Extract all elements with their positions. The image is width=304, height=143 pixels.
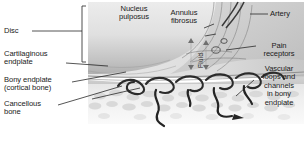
label-fluid: Fluid (198, 53, 205, 68)
label-cancellous-bone: Cancellous bone (4, 100, 41, 117)
label-nucleus-pulposus: Nucleus pulposus (104, 5, 164, 22)
label-pain-receptors: Pain receptors (255, 42, 303, 59)
anatomy-figure: Disc Cartilaginous endplate Bony endplat… (0, 0, 304, 143)
label-artery: Artery (270, 10, 290, 18)
disc-bracket (82, 6, 86, 62)
label-bony-endplate: Bony endplate (cortical bone) (4, 76, 52, 93)
label-disc: Disc (4, 27, 19, 35)
label-annulus-fibrosus: Annulus fibrosus (162, 9, 206, 26)
label-cartilaginous-endplate: Cartilaginous endplate (4, 50, 48, 67)
label-vascular-loops: Vascular loops and channels in bony endp… (256, 65, 302, 107)
